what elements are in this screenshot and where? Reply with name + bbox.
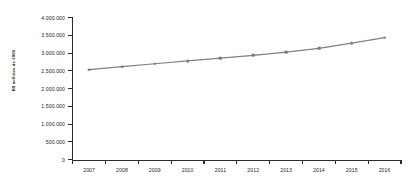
chart-container: R$ milhões de 2006 0500.0001.000.0001.50…	[0, 0, 410, 186]
y-axis-tick-label: 4.000.000	[41, 15, 65, 21]
x-axis-tick	[138, 160, 139, 164]
y-axis-tick-label: 0	[62, 157, 65, 163]
y-axis-tick-label: 1.000.000	[41, 121, 65, 127]
data-point-marker	[153, 62, 156, 65]
data-point-marker	[219, 57, 222, 60]
y-axis-tick	[68, 88, 72, 89]
y-axis-tick-label: 500.000	[46, 139, 65, 145]
data-point-marker	[88, 68, 91, 71]
x-axis-tick	[400, 160, 401, 164]
x-axis-tick-label: 2007	[83, 167, 95, 173]
y-axis-tick	[68, 106, 72, 107]
y-axis-line	[72, 17, 73, 161]
y-axis-tick	[68, 53, 72, 54]
x-axis-tick-label: 2015	[346, 167, 358, 173]
x-axis-tick-label: 2008	[116, 167, 128, 173]
x-axis-tick	[72, 160, 73, 164]
x-axis-tick-label: 2012	[247, 167, 259, 173]
x-axis-tick-label: 2016	[379, 167, 391, 173]
data-point-marker	[350, 42, 353, 45]
y-axis-tick-label: 1.500.000	[41, 103, 65, 109]
x-axis-tick	[105, 160, 106, 164]
y-axis-tick	[68, 17, 72, 18]
y-axis-tick	[68, 141, 72, 142]
x-axis-tick-label: 2014	[313, 167, 325, 173]
data-line-series-1	[89, 38, 384, 70]
data-point-marker	[252, 54, 255, 57]
y-axis-tick-label: 2.500.000	[41, 68, 65, 74]
x-axis-tick	[368, 160, 369, 164]
x-axis-tick	[203, 160, 204, 164]
x-axis-tick	[171, 160, 172, 164]
y-axis-tick	[68, 70, 72, 71]
x-axis-tick	[236, 160, 237, 164]
y-axis-tick-label: 3.000.000	[41, 50, 65, 56]
x-axis-tick	[302, 160, 303, 164]
data-point-marker	[121, 65, 124, 68]
x-axis-tick-label: 2009	[149, 167, 161, 173]
x-axis-tick-label: 2010	[182, 167, 194, 173]
y-axis-tick-label: 2.000.000	[41, 86, 65, 92]
x-axis-tick-label: 2013	[280, 167, 292, 173]
y-axis-title: R$ milhões de 2006	[11, 36, 16, 106]
data-point-marker	[285, 51, 288, 54]
y-axis-tick	[68, 124, 72, 125]
x-axis-tick-label: 2011	[215, 167, 226, 173]
y-axis-tick-label: 3.500.000	[41, 32, 65, 38]
data-point-marker	[318, 47, 321, 50]
x-axis-tick	[269, 160, 270, 164]
x-axis-tick	[335, 160, 336, 164]
data-point-marker	[383, 36, 386, 39]
y-axis-tick	[68, 35, 72, 36]
data-point-marker	[186, 60, 189, 63]
